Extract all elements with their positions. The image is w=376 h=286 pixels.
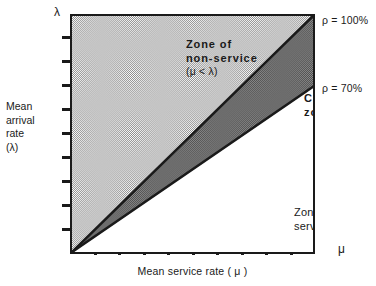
queueing-zones-chart: λ μ [0,0,376,286]
zone-of-non-service-label: Zone of non-service (μ < λ) [186,38,258,79]
zone-of-non-service-line2: non-service [186,52,258,66]
y-axis-title-line3: rate [6,127,66,141]
y-axis-title-line4: (λ) [6,141,66,155]
x-axis-title: Mean service rate ( μ ) [70,265,315,278]
zone-of-service-line1: Zone of [294,206,315,220]
critical-zone-line1: Critical [304,92,315,106]
zone-of-service-line2: service [294,220,315,234]
y-axis-title-line2: arrival [6,114,66,128]
y-axis-end-symbol: λ [54,6,60,18]
x-axis-end-symbol: μ [338,243,345,255]
critical-zone-label: Critical zone [304,92,315,119]
zone-of-non-service-condition: (μ < λ) [186,65,258,79]
critical-zone-line2: zone [304,106,315,120]
zone-of-non-service-line1: Zone of [186,38,258,52]
y-axis-title-line1: Mean [6,100,66,114]
zone-of-service-label: Zone of service [294,206,315,233]
rho-70-annotation: ρ = 70% [322,82,362,94]
plot-area: Zone of non-service (μ < λ) Critical zon… [70,14,315,254]
y-axis-title: Mean arrival rate (λ) [6,100,66,154]
rho-100-annotation: ρ = 100% [322,14,368,26]
